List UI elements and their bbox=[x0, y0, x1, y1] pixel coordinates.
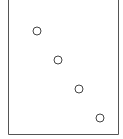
data-point-marker bbox=[96, 114, 104, 122]
data-point-marker bbox=[54, 56, 62, 64]
scatter-plot bbox=[0, 0, 123, 139]
data-point-marker bbox=[75, 85, 83, 93]
data-point-marker bbox=[33, 27, 41, 35]
